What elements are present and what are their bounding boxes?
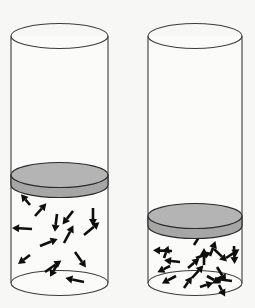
arrow-shaft [221,279,232,281]
arrow-shaft [171,261,180,262]
piston-right [148,204,242,239]
arrow-shaft [19,228,32,229]
arrow-shaft [56,214,57,225]
gas-cylinder-diagram [0,0,255,308]
diagram-canvas [0,0,255,308]
piston-right-top [148,204,242,229]
cylinder-left-bottom-ellipse [11,271,108,296]
cylinder-left [11,24,108,296]
piston-left-top [11,163,108,188]
piston-left [11,163,108,198]
cylinder-right [148,24,242,297]
